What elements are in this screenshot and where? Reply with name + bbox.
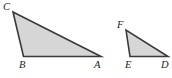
triangle-def-shape: [126, 30, 168, 57]
vertex-label-f: F: [117, 19, 123, 30]
vertex-label-c: C: [3, 1, 10, 12]
triangles-canvas: [0, 0, 172, 78]
vertex-label-e: E: [125, 59, 131, 70]
vertex-label-b: B: [19, 59, 25, 70]
vertex-label-d: D: [161, 59, 169, 70]
triangle-abc-shape: [13, 12, 101, 57]
vertex-label-a: A: [94, 59, 100, 70]
geometry-figure: C B A F E D: [0, 0, 172, 78]
